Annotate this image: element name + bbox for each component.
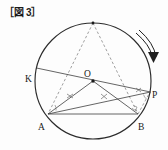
radius-o-b (93, 81, 138, 114)
label-point-o: O (84, 69, 91, 79)
vertex-dot-o (91, 79, 94, 82)
geometry-diagram: O K P A B (0, 0, 168, 150)
figure-container: ［図 3］ (0, 0, 168, 150)
label-point-b: B (138, 122, 144, 132)
label-point-k: K (25, 74, 32, 84)
equal-mark-ap (101, 94, 107, 99)
angle-arc-p (144, 95, 147, 100)
angle-arc-a (55, 105, 56, 111)
rotation-arrow-head (148, 52, 159, 63)
label-point-p: P (152, 90, 157, 100)
label-point-a: A (38, 122, 45, 132)
vertex-dot-apex (92, 22, 95, 25)
